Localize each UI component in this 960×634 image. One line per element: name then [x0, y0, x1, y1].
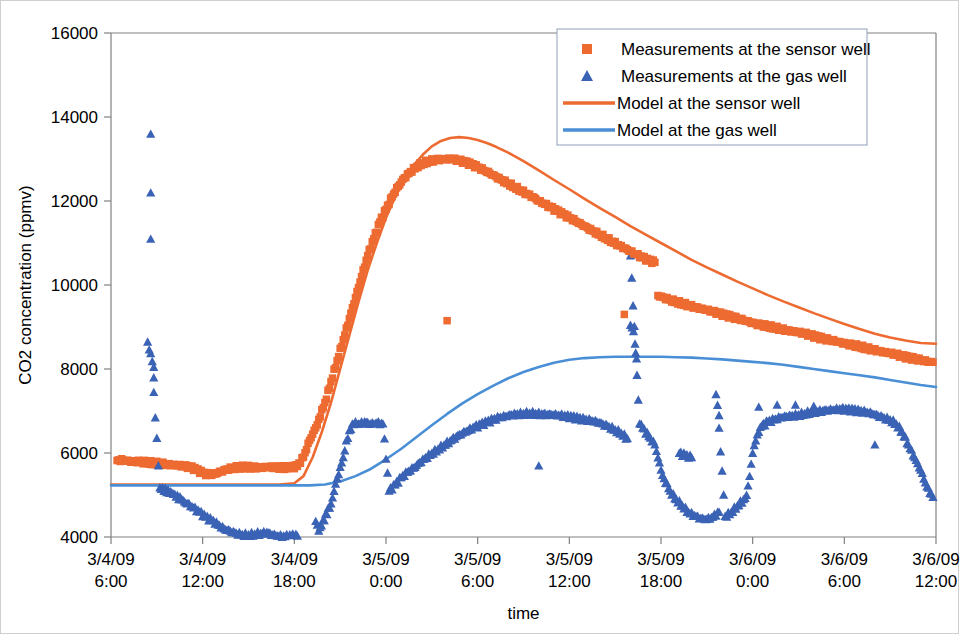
x-tick-label-date: 3/5/09	[454, 550, 501, 569]
x-tick-label-date: 3/6/09	[912, 550, 959, 569]
y-tick-label: 4000	[60, 528, 98, 547]
y-tick-label: 16000	[51, 24, 98, 43]
legend-entry-label: Model at the gas well	[617, 121, 777, 140]
y-tick-label: 12000	[51, 192, 98, 211]
y-axis-title-text: CO2 concentration (ppmv)	[16, 185, 35, 384]
y-tick-label: 14000	[51, 108, 98, 127]
data-point-marker	[314, 421, 322, 429]
x-tick-label-date: 3/4/09	[87, 550, 134, 569]
data-point-marker	[367, 245, 375, 253]
data-point-marker	[338, 343, 346, 351]
data-point-marker	[713, 401, 722, 409]
data-point-marker	[332, 364, 340, 372]
data-point-marker	[714, 411, 723, 419]
x-tick-label-date: 3/6/09	[729, 550, 776, 569]
data-point-marker	[634, 395, 643, 403]
chart-legend: Measurements at the sensor wellMeasureme…	[557, 29, 870, 145]
data-point-marker	[335, 353, 343, 361]
legend-square-marker-icon	[582, 44, 592, 54]
series-scatter-dense	[115, 154, 935, 479]
x-tick-label-time: 0:00	[736, 572, 769, 591]
legend-entry-label: Measurements at the sensor well	[621, 40, 870, 59]
data-point-marker	[343, 434, 352, 442]
x-tick-label-time: 12:00	[181, 572, 224, 591]
data-point-marker	[621, 311, 629, 319]
data-point-marker	[754, 402, 763, 410]
x-tick-label-time: 12:00	[548, 572, 591, 591]
data-point-marker	[375, 221, 383, 229]
data-point-marker	[344, 322, 352, 330]
data-point-marker	[356, 278, 364, 286]
data-point-marker	[383, 468, 392, 476]
x-tick-label-date: 3/5/09	[362, 550, 409, 569]
x-tick-label-time: 0:00	[369, 572, 402, 591]
series-scatter	[113, 155, 936, 478]
data-point-marker	[317, 413, 325, 421]
data-point-marker	[791, 400, 800, 408]
data-point-marker	[143, 337, 152, 345]
chart-canvas: CO2 concentration (ppmv) 3/4/096:003/4/0…	[1, 1, 960, 634]
data-point-marker	[630, 339, 639, 347]
data-point-marker	[369, 238, 377, 246]
data-point-marker	[714, 423, 723, 431]
x-tick-label-time: 6:00	[94, 572, 127, 591]
data-point-marker	[745, 472, 754, 480]
data-point-marker	[151, 413, 160, 421]
data-point-marker	[303, 446, 311, 454]
data-point-marker	[340, 446, 349, 454]
data-point-marker	[362, 257, 370, 265]
data-point-marker	[716, 447, 725, 455]
data-point-marker	[718, 466, 727, 474]
x-tick-label-date: 3/4/09	[179, 550, 226, 569]
x-tick-label-time: 18:00	[640, 572, 683, 591]
data-point-marker	[628, 301, 637, 309]
x-axis-title: time	[507, 604, 539, 623]
data-point-marker	[320, 404, 328, 412]
data-point-marker	[149, 373, 158, 381]
data-point-marker	[656, 465, 665, 473]
data-point-marker	[650, 256, 658, 264]
data-point-marker	[443, 317, 451, 325]
y-axis-title: CO2 concentration (ppmv)	[16, 185, 35, 384]
x-axis-title-text: time	[507, 604, 539, 623]
data-point-marker	[747, 459, 756, 467]
x-tick-label-date: 3/5/09	[637, 550, 684, 569]
data-point-marker	[711, 390, 720, 398]
legend-entry-label: Measurements at the gas well	[621, 67, 847, 86]
y-tick-label: 8000	[60, 360, 98, 379]
data-point-marker	[152, 434, 161, 442]
x-tick-label-time: 12:00	[915, 572, 958, 591]
y-tick-label: 10000	[51, 276, 98, 295]
x-tick-label-time: 6:00	[828, 572, 861, 591]
data-point-marker	[631, 348, 640, 356]
data-series	[111, 129, 938, 541]
x-tick-label-date: 3/6/09	[821, 550, 868, 569]
data-point-marker	[379, 214, 387, 222]
data-point-marker	[773, 400, 782, 408]
data-point-marker	[743, 481, 752, 489]
data-point-marker	[380, 434, 389, 442]
data-point-marker	[928, 358, 936, 366]
legend-entry-label: Model at the sensor well	[617, 94, 800, 113]
data-point-marker	[627, 273, 636, 281]
x-tick-label-time: 18:00	[273, 572, 316, 591]
y-tick-label: 6000	[60, 444, 98, 463]
data-point-marker	[146, 188, 155, 196]
data-point-marker	[350, 300, 358, 308]
data-point-marker	[341, 331, 349, 339]
data-point-marker	[632, 371, 641, 379]
x-tick-label-time: 6:00	[461, 572, 494, 591]
data-point-marker	[148, 357, 157, 365]
data-point-marker	[326, 385, 334, 393]
x-axis-tick-labels: 3/4/096:003/4/0912:003/4/0918:003/5/090:…	[87, 537, 959, 591]
x-tick-label-date: 3/4/09	[271, 550, 318, 569]
x-tick-label-date: 3/5/09	[546, 550, 593, 569]
data-point-marker	[146, 129, 155, 137]
y-axis-tick-labels: 40006000800010000120001400016000	[51, 24, 111, 547]
data-point-marker	[146, 234, 155, 242]
data-point-marker	[323, 395, 331, 403]
data-point-marker	[149, 388, 158, 396]
data-point-marker	[870, 440, 879, 448]
data-point-marker	[534, 461, 543, 469]
